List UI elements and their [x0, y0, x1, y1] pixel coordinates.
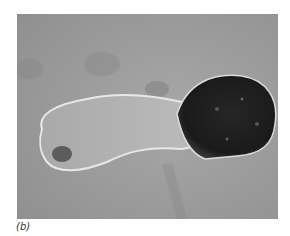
micrograph-photo	[17, 14, 278, 219]
panel-label: (b)	[16, 221, 30, 232]
micrograph-illustration	[17, 14, 278, 219]
